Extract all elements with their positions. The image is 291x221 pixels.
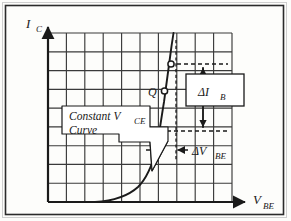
delta-vbe-label-main: ΔV: [191, 144, 208, 158]
delta-ib-box: [186, 74, 244, 106]
callout-line1-sub: CE: [134, 116, 146, 126]
y-axis-label-sub: C: [36, 24, 43, 34]
upper-operating-point-marker: [168, 61, 174, 67]
callout-line1-main: Constant V: [69, 110, 122, 122]
delta-ib-label-main: ΔI: [197, 85, 210, 99]
y-axis-label-main: I: [25, 16, 31, 31]
delta-ib-label-sub: B: [220, 92, 226, 102]
figure-container: I C V BE ΔI B: [0, 0, 291, 221]
delta-ib-label-box: ΔI B: [186, 74, 244, 106]
x-axis-label-sub: BE: [263, 201, 274, 211]
callout-line2: Curve: [69, 124, 97, 136]
q-point-marker: [161, 88, 167, 94]
transistor-input-characteristic-diagram: I C V BE ΔI B: [0, 0, 291, 221]
delta-vbe-label-sub: BE: [215, 151, 226, 161]
q-point-label: Q: [148, 85, 157, 99]
